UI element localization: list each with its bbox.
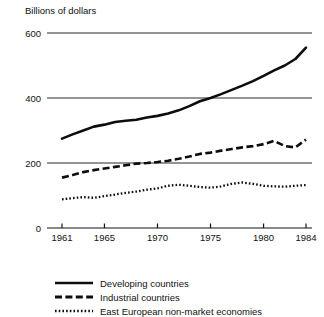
- y-tick-label-200: 200: [25, 158, 41, 169]
- y-tick-label-400: 400: [25, 93, 41, 104]
- legend-label-0: Developing countries: [100, 278, 189, 289]
- x-tick-label-1970: 1970: [147, 232, 168, 243]
- legend-label-1: Industrial countries: [100, 292, 180, 303]
- line-chart-figure: Billions of dollars 0200400600 196119651…: [0, 0, 324, 317]
- x-tick-label-1965: 1965: [94, 232, 115, 243]
- x-tick-label-1961: 1961: [51, 232, 72, 243]
- y-tick-label-0: 0: [36, 223, 41, 234]
- x-tick-label-1975: 1975: [200, 232, 221, 243]
- chart-background: [0, 0, 324, 317]
- x-tick-label-1980: 1980: [253, 232, 274, 243]
- chart-title: Billions of dollars: [25, 5, 97, 16]
- y-tick-label-600: 600: [25, 28, 41, 39]
- x-tick-label-1984: 1984: [295, 232, 316, 243]
- legend-label-2: East European non-market economies: [100, 306, 262, 317]
